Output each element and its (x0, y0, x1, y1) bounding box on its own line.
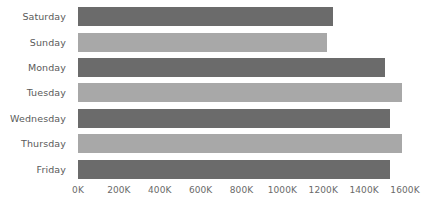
value-axis: 0K200K400K600K800K1000K1200K1400K1600K (78, 183, 426, 207)
category-label: Saturday (22, 11, 66, 22)
category-label: Wednesday (10, 113, 66, 124)
bar-row[interactable] (78, 80, 426, 105)
bar-row[interactable] (78, 4, 426, 29)
x-axis-tick-label: 1600K (390, 185, 419, 195)
category-label: Thursday (21, 138, 66, 149)
category-label-row: Friday (0, 157, 72, 182)
bar[interactable] (78, 83, 402, 102)
x-axis-tick-label: 1400K (349, 185, 378, 195)
bar-row[interactable] (78, 55, 426, 80)
bar[interactable] (78, 33, 327, 52)
x-axis-tick-label: 600K (189, 185, 212, 195)
x-axis-tick-label: 400K (148, 185, 171, 195)
bar-row[interactable] (78, 106, 426, 131)
category-label-row: Saturday (0, 4, 72, 29)
bar-row[interactable] (78, 157, 426, 182)
category-label: Monday (28, 62, 66, 73)
x-axis-tick-label: 200K (107, 185, 130, 195)
category-label: Friday (37, 164, 66, 175)
plot-area (78, 4, 426, 182)
x-axis-tick-label: 1200K (309, 185, 338, 195)
category-label-row: Wednesday (0, 106, 72, 131)
x-axis-tick-label: 1000K (268, 185, 297, 195)
category-label: Sunday (30, 37, 66, 48)
bar[interactable] (78, 134, 402, 153)
bar-row[interactable] (78, 29, 426, 54)
category-label-row: Tuesday (0, 80, 72, 105)
category-label-row: Sunday (0, 29, 72, 54)
category-label: Tuesday (27, 87, 66, 98)
category-axis: SaturdaySundayMondayTuesdayWednesdayThur… (0, 4, 72, 182)
bar[interactable] (78, 160, 390, 179)
bar-chart: SaturdaySundayMondayTuesdayWednesdayThur… (0, 0, 426, 213)
bar[interactable] (78, 109, 390, 128)
bar-row[interactable] (78, 131, 426, 156)
bar[interactable] (78, 58, 385, 77)
category-label-row: Monday (0, 55, 72, 80)
x-axis-tick-label: 0K (72, 185, 84, 195)
bar[interactable] (78, 7, 333, 26)
category-label-row: Thursday (0, 131, 72, 156)
x-axis-tick-label: 800K (230, 185, 253, 195)
